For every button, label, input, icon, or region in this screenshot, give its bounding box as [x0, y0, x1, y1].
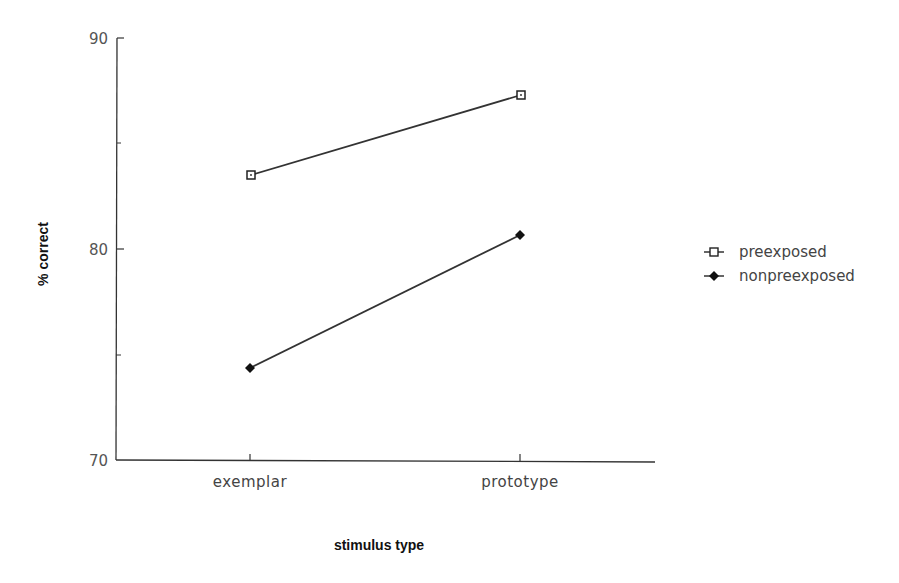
y-axis: 90 80 70: [89, 30, 124, 470]
x-axis-title: stimulus type: [334, 537, 424, 553]
open-square-legend-icon: [710, 248, 718, 256]
series-nonpreexposed: [245, 230, 525, 373]
legend-label-preexposed: preexposed: [739, 243, 827, 261]
legend-item-nonpreexposed: nonpreexposed: [704, 267, 855, 285]
legend-label-nonpreexposed: nonpreexposed: [739, 267, 855, 285]
x-tick-exemplar: exemplar: [213, 473, 288, 491]
legend: preexposed nonpreexposed: [704, 243, 855, 285]
series-preexposed: [247, 91, 525, 179]
x-tick-prototype: prototype: [481, 473, 559, 491]
y-tick-80: 80: [89, 241, 108, 259]
legend-item-preexposed: preexposed: [704, 243, 827, 261]
filled-diamond-marker-icon: [515, 230, 525, 240]
filled-diamond-legend-icon: [709, 271, 719, 281]
y-tick-70: 70: [89, 452, 108, 470]
filled-diamond-marker-icon: [245, 363, 255, 373]
line-chart: 90 80 70 exemplar prototype stimulus typ…: [0, 0, 899, 583]
x-axis: exemplar prototype: [116, 454, 655, 491]
y-tick-90: 90: [89, 30, 108, 48]
y-axis-title: % correct: [35, 222, 51, 286]
